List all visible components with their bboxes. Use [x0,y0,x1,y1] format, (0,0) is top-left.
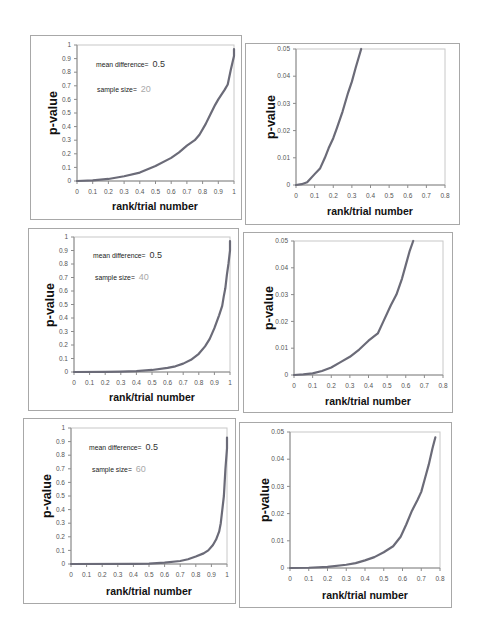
y-tick-label: 1 [64,233,68,240]
y-tick-label: 0.02 [271,510,284,517]
y-tick-label: 0.7 [56,465,65,472]
mean-difference-label: mean difference= [96,61,149,68]
x-tick-label: 0.4 [364,382,373,389]
x-tick-label: 1 [228,379,232,386]
x-tick-label: 0 [294,192,298,199]
x-tick-label: 0.3 [120,188,129,195]
y-tick-label: 0.1 [56,547,65,554]
sample-size-value: 20 [141,84,151,94]
x-tick-label: 0.2 [323,575,332,582]
sample-size-annotation: sample size= 60 [92,464,146,474]
x-tick-label: 0.4 [132,379,141,386]
x-tick-label: 0 [288,575,292,582]
chart-panel-n60-full: 00.10.20.30.40.50.60.70.80.9100.10.20.30… [23,418,236,604]
y-tick-label: 0.01 [277,154,290,161]
x-tick-label: 0.7 [176,571,185,578]
x-tick-label: 0.8 [198,188,207,195]
y-tick-label: 0 [64,368,68,375]
y-tick-label: 0.4 [62,123,71,130]
plot-area [294,241,443,375]
y-tick-label: 0.7 [59,274,68,281]
x-tick-label: 0.7 [182,188,191,195]
x-tick-label: 0 [72,379,76,386]
y-tick-label: 0.05 [275,237,288,244]
x-tick-label: 0 [69,571,73,578]
y-tick-label: 0 [286,181,290,188]
x-tick-label: 0.7 [179,379,188,386]
y-axis-label: p-value [264,95,278,139]
x-tick-label: 0.4 [129,571,138,578]
x-axis-label: rank/trial number [322,589,408,601]
x-tick-label: 0.5 [383,382,392,389]
y-tick-label: 0.8 [56,451,65,458]
x-tick-label: 0.5 [151,188,160,195]
chart-panel-n60-zoom: 00.010.020.030.040.0500.10.20.30.40.50.6… [239,422,452,608]
y-tick-label: 0.01 [271,537,284,544]
x-tick-label: 0.1 [85,379,94,386]
sample-size-label: sample size= [97,86,137,93]
y-tick-label: 0.6 [56,479,65,486]
y-tick-label: 0.05 [277,45,290,52]
sample-size-value: 40 [139,272,149,282]
x-tick-label: 0.6 [398,575,407,582]
y-tick-label: 1 [67,41,71,48]
y-axis-label: p-value [46,91,60,135]
chart-panel-n40-full: 00.10.20.30.40.50.60.70.80.9100.10.20.30… [28,228,239,411]
y-tick-label: 0.04 [277,72,290,79]
y-tick-label: 0.3 [62,136,71,143]
y-tick-label: 0.2 [56,533,65,540]
x-tick-label: 0.1 [308,382,317,389]
p-value-curve [74,241,230,372]
y-tick-label: 0.8 [62,68,71,75]
x-axis-label: rank/trial number [109,391,195,403]
sample-size-annotation: sample size= 40 [95,272,149,282]
p-value-curve [296,49,361,185]
x-axis-label: rank/trial number [327,205,413,217]
x-tick-label: 0.4 [135,188,144,195]
x-tick-label: 0.3 [347,192,356,199]
chart-panel-n20-full: 00.10.20.30.40.50.60.70.80.9100.10.20.30… [30,35,242,220]
mean-difference-value: 0.5 [146,442,159,452]
y-axis-label: p-value [258,478,272,522]
y-tick-label: 1 [61,424,65,431]
y-tick-label: 0.1 [59,355,68,362]
x-tick-label: 0.5 [147,379,156,386]
x-tick-label: 0.6 [401,382,410,389]
x-axis-label: rank/trial number [112,200,198,212]
x-tick-label: 0.6 [403,192,412,199]
x-tick-label: 0.7 [417,575,426,582]
x-tick-label: 0.6 [160,571,169,578]
x-tick-label: 0.9 [210,379,219,386]
y-tick-label: 0.6 [62,96,71,103]
x-tick-label: 0.2 [327,382,336,389]
y-tick-label: 0.7 [62,82,71,89]
mean-difference-value: 0.5 [150,250,163,260]
x-tick-label: 0.9 [207,571,216,578]
x-tick-label: 1 [225,571,229,578]
x-tick-label: 0.1 [82,571,91,578]
y-tick-label: 0.3 [56,519,65,526]
y-tick-label: 0.9 [59,247,68,254]
p-value-curve [294,241,413,375]
x-tick-label: 0.8 [435,575,444,582]
y-tick-label: 0.9 [56,438,65,445]
x-axis-label: rank/trial number [106,585,192,597]
x-tick-label: 0.8 [440,192,449,199]
y-tick-label: 0.01 [275,344,288,351]
y-tick-label: 0 [280,564,284,571]
x-tick-label: 0.2 [101,379,110,386]
y-tick-label: 0 [67,177,71,184]
mean-difference-label: mean difference= [93,252,146,259]
p-value-curve [71,438,227,564]
x-axis-label: rank/trial number [325,395,411,407]
mean-difference-annotation: mean difference= 0.5 [96,59,165,69]
x-tick-label: 0.3 [113,571,122,578]
mean-difference-value: 0.5 [153,59,166,69]
y-tick-label: 0.6 [59,287,68,294]
x-tick-label: 0 [292,382,296,389]
x-tick-label: 0.8 [438,382,447,389]
plot-area [296,49,445,185]
y-tick-label: 0.03 [271,483,284,490]
y-tick-label: 0.04 [275,264,288,271]
y-axis-label: p-value [40,474,54,518]
